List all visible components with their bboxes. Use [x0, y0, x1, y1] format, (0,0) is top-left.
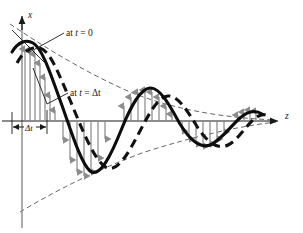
damped-wave-plot: x z at t = 0 at t = Δt Δt — [0, 0, 303, 233]
label-at-t-delta-pre: at — [70, 88, 79, 98]
label-at-t-delta-post: = Δt — [82, 88, 101, 98]
figure-canvas: x z at t = 0 at t = Δt Δt — [0, 0, 303, 233]
label-at-t-zero-post: = 0 — [78, 28, 93, 38]
wave-curve-t-delta — [17, 48, 266, 169]
y-axis-label: x — [27, 10, 33, 20]
label-at-t-zero-pre: at — [66, 28, 75, 38]
label-at-t-zero: at t = 0 — [66, 28, 93, 38]
x-axis-label: z — [284, 111, 289, 121]
label-at-t-delta: at t = Δt — [70, 88, 101, 98]
displacement-arrows-group — [25, 49, 256, 176]
label-delta-t-interval: Δt — [24, 123, 33, 133]
